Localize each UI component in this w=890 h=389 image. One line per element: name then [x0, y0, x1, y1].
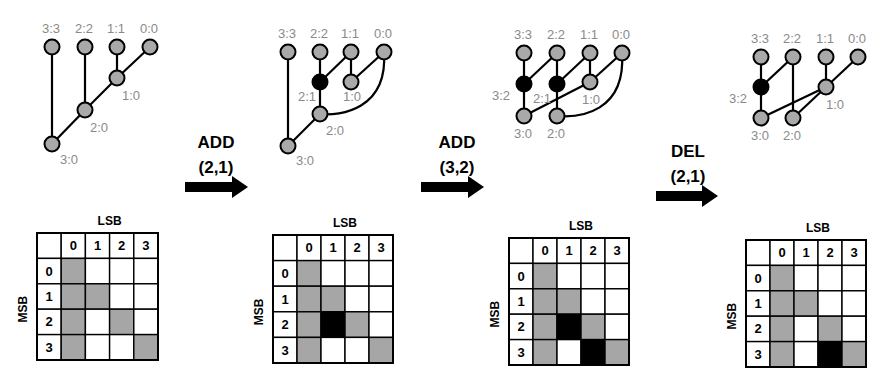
tree-graph: 3:32:21:10:01:02:03:0 [42, 21, 158, 167]
tree-node-1-1 [344, 45, 359, 60]
bitmap-grid: LSBMSB01230123 [488, 219, 629, 365]
node-label: 3:2 [729, 91, 747, 106]
grid-cell-3-0 [61, 335, 85, 360]
grid-cell-2-3 [134, 309, 158, 334]
tree-node-1-0 [583, 75, 598, 90]
node-label: 0:0 [374, 26, 392, 41]
grid-cell-3-1 [321, 337, 345, 363]
node-label: 1:1 [580, 27, 598, 42]
tree-node-2-2 [550, 46, 565, 61]
row-header: 1 [281, 292, 288, 307]
tree-node-3-2 [517, 77, 532, 92]
grid-cell-0-1 [794, 265, 818, 290]
operation-name: DEL [671, 142, 705, 161]
tree-node-0-0 [615, 46, 630, 61]
row-header: 0 [281, 266, 288, 281]
node-label: 2:0 [547, 126, 565, 141]
grid-cell-3-3 [369, 337, 393, 363]
tree-node-1-1 [110, 40, 125, 55]
msb-axis-label: MSB [725, 303, 739, 330]
column-header: 3 [377, 240, 384, 255]
grid-cell-3-0 [533, 340, 557, 365]
node-label: 3:0 [751, 128, 769, 143]
tree-node-2-2 [786, 50, 801, 65]
grid-header-cell [746, 240, 770, 265]
grid-cell-2-2 [345, 312, 369, 338]
grid-cell-1-3 [369, 286, 393, 312]
node-label: 2:0 [90, 120, 108, 135]
column-header: 1 [94, 238, 101, 253]
node-label: 3:3 [751, 31, 769, 46]
grid-cell-0-0 [533, 263, 557, 288]
node-label: 2:1 [533, 91, 551, 106]
node-label: 0:0 [140, 21, 158, 36]
row-header: 3 [517, 345, 524, 360]
panel-initial: 3:32:21:10:01:02:03:0LSBMSB01230123 [16, 21, 158, 360]
grid-cell-0-0 [770, 265, 794, 290]
node-label: 2:0 [783, 128, 801, 143]
bitmap-grid: LSBMSB01230123 [252, 216, 393, 363]
operation-argument: (2,1) [199, 158, 234, 177]
column-header: 2 [118, 238, 125, 253]
grid-cell-0-2 [818, 265, 842, 290]
tree-node-1-1 [583, 46, 598, 61]
grid-cell-3-2 [818, 342, 842, 367]
node-label: 1:1 [107, 21, 125, 36]
grid-cell-3-2 [581, 340, 605, 365]
diagram-canvas: 3:32:21:10:01:02:03:0LSBMSB012301233:32:… [0, 0, 890, 389]
grid-cell-0-2 [110, 258, 134, 283]
node-label: 1:1 [816, 31, 834, 46]
node-label: 3:0 [60, 152, 78, 167]
grid-cell-2-3 [369, 312, 393, 338]
tree-node-2-0 [550, 109, 565, 124]
operation-del-2: DEL(2,1) [656, 142, 718, 207]
node-label: 2:1 [298, 89, 316, 104]
grid-cell-2-2 [818, 316, 842, 341]
tree-node-3-3 [281, 45, 296, 60]
lsb-axis-label: LSB [98, 214, 122, 228]
row-header: 1 [517, 294, 524, 309]
operation-name: ADD [439, 133, 476, 152]
tree-node-0-0 [377, 45, 392, 60]
grid-cell-0-3 [605, 263, 629, 288]
tree-node-2-0 [313, 107, 328, 122]
tree-node-1-1 [819, 50, 834, 65]
row-header: 1 [754, 296, 761, 311]
right-arrow-icon [421, 176, 484, 198]
grid-cell-2-1 [85, 309, 109, 334]
grid-cell-2-1 [557, 314, 581, 339]
tree-node-2-0 [78, 103, 93, 118]
node-label: 2:2 [547, 27, 565, 42]
grid-cell-0-0 [61, 258, 85, 283]
grid-header-cell [509, 238, 533, 263]
grid-cell-2-0 [297, 312, 321, 338]
row-header: 1 [45, 289, 52, 304]
node-label: 3:0 [296, 153, 314, 168]
column-header: 0 [541, 243, 548, 258]
right-arrow-icon [185, 176, 248, 198]
tree-node-2-1 [313, 75, 328, 90]
grid-cell-3-3 [842, 342, 866, 367]
column-header: 2 [589, 243, 596, 258]
row-header: 2 [754, 321, 761, 336]
grid-header-cell [37, 233, 61, 258]
column-header: 0 [305, 240, 312, 255]
node-label: 3:3 [42, 21, 60, 36]
grid-cell-2-3 [605, 314, 629, 339]
column-header: 1 [329, 240, 336, 255]
operations: ADD(2,1)ADD(3,2)DEL(2,1) [185, 133, 718, 207]
node-label: 2:0 [326, 123, 344, 138]
grid-cell-1-0 [61, 284, 85, 309]
tree-node-3-0 [517, 109, 532, 124]
node-label: 1:1 [341, 26, 359, 41]
grid-cell-3-0 [770, 342, 794, 367]
grid-cell-3-2 [110, 335, 134, 360]
tree-node-3-0 [45, 137, 60, 152]
operation-name: ADD [198, 133, 235, 152]
grid-cell-2-0 [770, 316, 794, 341]
tree-graph: 3:32:21:10:02:11:02:03:0 [278, 26, 392, 168]
column-header: 3 [613, 243, 620, 258]
operation-add-0: ADD(2,1) [185, 133, 248, 198]
grid-cell-1-0 [770, 291, 794, 316]
node-label: 1:0 [582, 92, 600, 107]
